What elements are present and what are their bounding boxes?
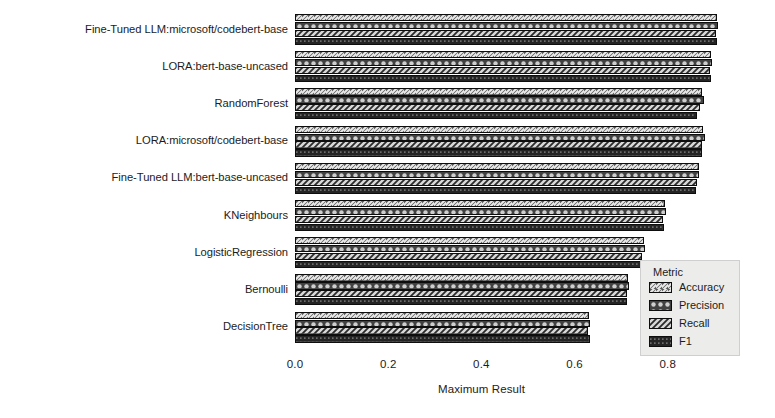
legend-title: Metric <box>653 266 683 278</box>
bar-precision <box>295 59 712 66</box>
bar-precision <box>295 208 666 215</box>
bar-recall <box>295 327 588 334</box>
x-tick-label: 0.2 <box>368 358 408 370</box>
legend-label: F1 <box>679 335 692 347</box>
bar-accuracy <box>295 126 703 133</box>
bar-accuracy <box>295 163 699 170</box>
x-tick-label: 0.4 <box>461 358 501 370</box>
bar-precision <box>295 134 705 141</box>
bar-precision <box>295 22 718 29</box>
bar-recall <box>295 67 710 74</box>
bar-f1 <box>295 149 702 156</box>
y-tick-label: Fine-Tuned LLM:microsoft/codebert-base <box>85 24 288 35</box>
bar-accuracy <box>295 237 644 244</box>
x-tick-label: 0.8 <box>648 358 688 370</box>
bar-f1 <box>295 261 643 268</box>
bar-chart: Model Type Maximum Result Fine-Tuned LLM… <box>0 0 775 418</box>
bar-precision <box>295 171 699 178</box>
legend-swatch-icon <box>649 336 672 347</box>
bar-recall <box>295 253 642 260</box>
bar-f1 <box>295 38 717 45</box>
bar-precision <box>295 96 704 103</box>
bar-recall <box>295 179 697 186</box>
bar-f1 <box>295 298 627 305</box>
bar-recall <box>295 216 663 223</box>
y-tick-label: DecisionTree <box>223 321 288 332</box>
bar-accuracy <box>295 274 628 281</box>
y-tick-label: KNeighbours <box>224 210 288 221</box>
bar-accuracy <box>295 51 711 58</box>
bar-recall <box>295 30 716 37</box>
bar-precision <box>295 245 645 252</box>
bar-recall <box>295 104 700 111</box>
y-tick-label: LORA:microsoft/codebert-base <box>136 135 288 146</box>
legend-swatch-icon <box>649 300 672 311</box>
bar-f1 <box>295 335 590 342</box>
bar-accuracy <box>295 200 665 207</box>
y-tick-label: Fine-Tuned LLM:bert-base-uncased <box>112 172 288 183</box>
x-tick-label: 0.0 <box>275 358 315 370</box>
bar-f1 <box>295 224 664 231</box>
y-tick-label: RandomForest <box>215 98 288 109</box>
legend: Metric AccuracyPrecisionRecallF1 <box>640 260 740 356</box>
bar-precision <box>295 282 629 289</box>
bar-accuracy <box>295 14 717 21</box>
y-tick-label: Bernoulli <box>245 284 288 295</box>
bar-f1 <box>295 112 697 119</box>
bar-f1 <box>295 75 711 82</box>
bar-precision <box>295 320 590 327</box>
x-axis-label: Maximum Result <box>295 383 668 395</box>
y-tick-label: LogisticRegression <box>194 247 288 258</box>
bar-recall <box>295 290 627 297</box>
legend-label: Accuracy <box>679 281 724 293</box>
bar-recall <box>295 141 702 148</box>
legend-label: Precision <box>679 299 724 311</box>
legend-label: Recall <box>679 317 710 329</box>
legend-swatch-icon <box>649 318 672 329</box>
x-tick-label: 0.6 <box>555 358 595 370</box>
bar-f1 <box>295 187 696 194</box>
bar-accuracy <box>295 312 589 319</box>
legend-swatch-icon <box>649 282 672 293</box>
y-tick-label: LORA:bert-base-uncased <box>162 61 288 72</box>
bar-accuracy <box>295 88 702 95</box>
